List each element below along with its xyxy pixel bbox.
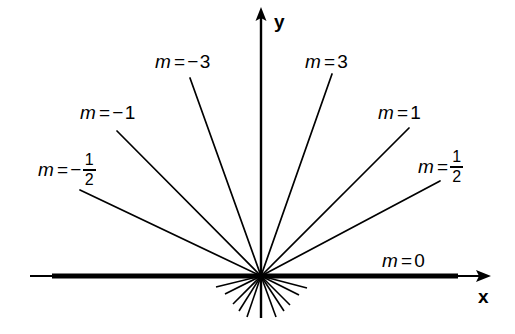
minus-sign: − [112, 102, 124, 123]
fraction-denominator: 2 [83, 171, 96, 188]
label-m-pos-3: m=3 [305, 52, 348, 71]
equals-sign: = [437, 156, 450, 177]
fraction-numerator: 1 [83, 152, 96, 171]
ray-m-neg-3 [190, 78, 261, 276]
label-m-pos-1: m=1 [378, 103, 421, 122]
label-m-neg-half: m=−12 [38, 153, 96, 190]
ray-m-neg-1 [117, 131, 261, 276]
equals-sign: = [57, 159, 70, 180]
label-m-neg-1: m=−1 [80, 103, 135, 122]
slope-value: 1 [410, 102, 421, 123]
equals-sign: = [324, 51, 337, 72]
slope-diagram-figure: y x m=−12 m=−1 m=−3 m=3 m=1 m=12 m=0 [0, 0, 515, 334]
m-variable: m [378, 102, 397, 123]
m-variable: m [155, 51, 174, 72]
fraction-one-half: 12 [450, 149, 463, 186]
label-m-pos-half: m=12 [418, 150, 463, 187]
ray-m-pos-3 [261, 74, 332, 276]
ray-m-neg-half [80, 190, 261, 276]
equals-sign: = [397, 102, 410, 123]
slope-value: 1 [125, 102, 136, 123]
slope-value: 3 [337, 51, 348, 72]
fraction-numerator: 1 [450, 149, 463, 168]
equals-sign: = [401, 250, 414, 271]
m-variable: m [418, 156, 437, 177]
m-variable: m [305, 51, 324, 72]
label-m-neg-3: m=−3 [155, 52, 210, 71]
y-axis-label: y [274, 12, 285, 31]
minus-sign: − [70, 159, 82, 180]
x-axis-label: x [478, 287, 489, 306]
label-m-zero: m=0 [382, 251, 425, 270]
fraction-one-half: 12 [83, 152, 96, 189]
m-variable: m [382, 250, 401, 271]
minus-sign: − [187, 51, 199, 72]
m-variable: m [38, 159, 57, 180]
slope-value: 3 [200, 51, 211, 72]
equals-sign: = [99, 102, 112, 123]
slope-value: 0 [414, 250, 425, 271]
fraction-denominator: 2 [450, 168, 463, 185]
m-variable: m [80, 102, 99, 123]
equals-sign: = [174, 51, 187, 72]
